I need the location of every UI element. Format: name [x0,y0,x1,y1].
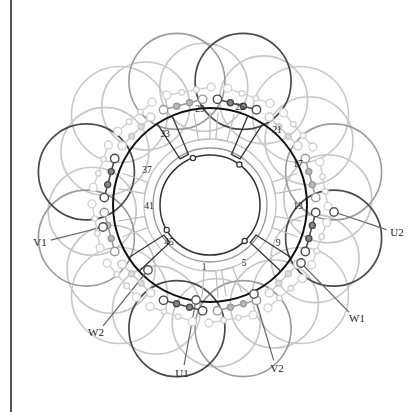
terminal-label-v2: V2 [270,363,283,374]
coil-node [108,169,114,175]
coil-node [146,303,154,311]
coil-node [236,315,242,321]
ring-junction [242,238,247,243]
coil-node [309,182,315,188]
series-link [320,162,328,206]
coil-node [100,193,108,201]
coil-node [179,90,185,96]
coil-node [306,235,312,241]
coil-node [239,91,245,97]
series-link [228,88,270,103]
coil-node [294,142,302,150]
coil-group-light [48,43,372,367]
coil-node [300,133,306,139]
coil-node [105,182,111,188]
coil-node [252,106,260,114]
coil-node [312,208,320,216]
coil-node [253,96,259,102]
coil-node [188,318,196,326]
terminal-label-u1: U1 [175,368,188,379]
coil-node [148,98,156,106]
coil-node [104,141,112,149]
coil-node [163,91,171,99]
coil-node [194,87,200,93]
connection-ring-light [144,139,276,271]
slot-label: 45 [164,238,174,248]
ring-junction [164,227,169,232]
coil-node [147,113,155,121]
coil-node [88,200,96,208]
slot-bracket [194,112,210,140]
coil-node [227,100,233,106]
ring-junction [237,162,242,167]
terminal-label-v1: V1 [33,237,46,248]
coil-node [101,156,107,162]
terminal-node [99,223,107,231]
slot-label: 5 [242,259,247,269]
series-link [93,145,108,187]
terminal-node [297,259,305,267]
coil-node [198,95,206,103]
slot-label: 13 [293,202,303,212]
coil-node [161,309,167,315]
coil-node [132,293,140,301]
coil-node [126,119,132,125]
coil-node [174,103,180,109]
slot-label: 17 [293,160,303,170]
coil-node [118,142,126,150]
slot-label: 9 [276,239,281,249]
slot-label: 41 [144,202,154,212]
coil-node [291,121,297,127]
coil-node [277,295,283,301]
coil-node [240,301,246,307]
coil-node [108,235,114,241]
coil-node [111,154,119,162]
coil-end-turn [48,167,136,255]
coil-node [138,124,144,130]
slot-label: 29 [195,105,205,115]
coil-node [138,109,144,115]
series-link [209,315,253,323]
slot-label: 25 [235,103,245,113]
terminal-node [144,266,152,274]
slot-label: 1 [202,263,207,273]
coil-node [124,283,130,289]
coil-node [280,109,288,117]
ring-junction [190,155,195,160]
winding-diagram [0,0,412,412]
coil-node [100,208,108,216]
coil-node [320,174,326,180]
coil-node [175,314,181,320]
terminal-label-u2: U2 [390,227,403,238]
coil-node [213,307,221,315]
slot-label: 21 [272,126,282,136]
coil-node [111,247,119,255]
coil-end-turn [38,190,134,286]
coil-node [114,272,120,278]
coil-node [265,113,273,121]
coil-node [174,301,180,307]
coil-node [96,244,104,252]
coil-node [118,260,126,268]
coil-node [323,189,329,195]
coil-node [266,99,274,107]
coil-node [323,219,331,227]
coil-node [306,169,312,175]
coil-node [285,271,291,277]
series-link [167,87,211,95]
coil-node [205,319,213,327]
coil-node [187,304,193,310]
coil-node [114,127,122,135]
coil-node [129,271,135,277]
slot-label: 33 [160,130,170,140]
coil-node [224,84,232,92]
coil-node [309,143,317,151]
coil-node [264,304,272,312]
terminal-node [330,208,338,216]
coil-node [227,304,233,310]
terminal-leads [51,212,387,365]
coil-node [312,193,320,201]
coil-node [316,158,324,166]
slot-bracket [216,112,234,141]
coil-node [319,234,325,240]
